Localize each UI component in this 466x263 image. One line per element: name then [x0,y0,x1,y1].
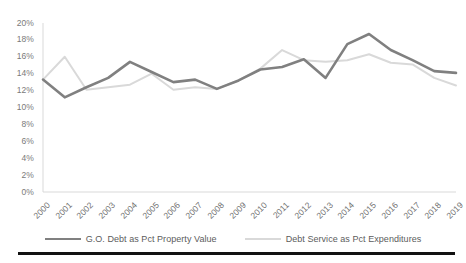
plot-area [0,0,466,263]
legend-swatch-icon [245,238,281,240]
axis-lines [43,23,456,192]
legend-swatch-icon [45,238,81,240]
series-line [43,50,456,90]
legend-item[interactable]: G.O. Debt as Pct Property Value [45,234,217,244]
bottom-divider-rule [18,252,455,255]
line-chart: 20%18%16%14%12%10%8%6%4%2%0% 20002001200… [0,0,466,263]
legend-label: G.O. Debt as Pct Property Value [86,234,217,244]
chart-legend: G.O. Debt as Pct Property ValueDebt Serv… [0,230,466,248]
series-lines [43,34,456,97]
legend-label: Debt Service as Pct Expenditures [286,234,422,244]
legend-item[interactable]: Debt Service as Pct Expenditures [245,234,422,244]
